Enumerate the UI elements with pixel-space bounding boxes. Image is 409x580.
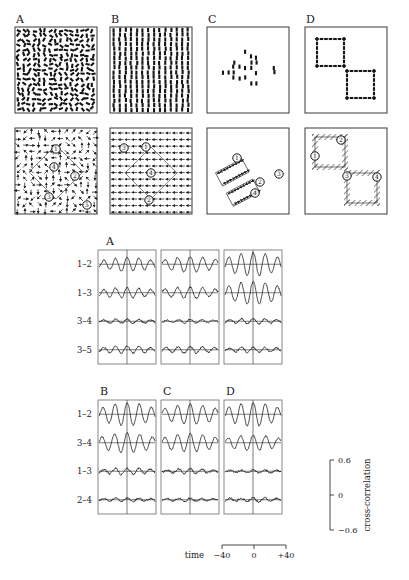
- recording-site-number: 4: [253, 189, 257, 196]
- stimulus-panel-letter: A: [15, 13, 25, 26]
- correlogram-column: [98, 250, 156, 364]
- recording-site-number: 2: [258, 178, 262, 185]
- stimulus-panel-d: D: [305, 13, 387, 113]
- stimulus-panels-group: ABCD: [15, 13, 387, 113]
- recording-site-number: 3: [122, 144, 126, 151]
- recording-site-marker: 3: [120, 144, 128, 152]
- receptive-field-panel-c: 1234: [207, 128, 289, 214]
- recording-site-number: 3: [277, 170, 281, 177]
- recording-site-marker: 1: [52, 145, 60, 153]
- receptive-field-panel-b: 3142: [110, 128, 192, 214]
- correlogram-row-label: 3–4: [77, 438, 92, 448]
- recording-site-marker: 1: [142, 143, 150, 151]
- receptive-field-panels-group: 14235314212342134: [14, 128, 387, 215]
- y-tick-label: 0: [338, 491, 343, 500]
- recording-site-marker: 2: [145, 196, 153, 204]
- correlogram-row-label: 3–5: [77, 345, 92, 355]
- y-tick-label: −0.6: [338, 526, 357, 535]
- x-tick-label: 0: [251, 551, 256, 560]
- recording-site-marker: 4: [147, 169, 155, 177]
- receptive-field-panel-d: 2134: [305, 128, 387, 214]
- recording-site-marker: 3: [275, 170, 283, 178]
- x-tick-label: +40: [278, 551, 295, 560]
- correlogram-block-letter: D: [226, 385, 235, 398]
- recording-site-marker: 1: [311, 152, 319, 160]
- correlogram-block-c: C: [161, 385, 219, 514]
- recording-site-marker: 5: [83, 201, 91, 209]
- recording-site-marker: 4: [373, 173, 381, 181]
- correlogram-row-label: 3–4: [77, 316, 92, 326]
- recording-site-marker: 3: [343, 172, 351, 180]
- recording-site-marker: 2: [337, 136, 345, 144]
- recording-site-number: 4: [375, 173, 379, 180]
- stimulus-frame: [110, 27, 192, 113]
- recording-site-number: 2: [339, 136, 343, 143]
- recording-site-marker: 2: [71, 172, 79, 180]
- correlogram-block-d: D: [224, 385, 282, 514]
- recording-site-number: 3: [47, 193, 51, 200]
- stimulus-panel-b: B: [110, 13, 192, 113]
- recording-site-marker: 1: [233, 154, 241, 162]
- recording-site-marker: 4: [251, 189, 259, 197]
- correlogram-group: A1–21–33–43–5B1–23–41–32–4CD: [77, 235, 282, 514]
- recording-site-number: 1: [313, 152, 317, 159]
- x-tick-label: −40: [214, 551, 231, 560]
- x-axis-title: time: [185, 550, 204, 560]
- recording-site-number: 5: [85, 201, 89, 208]
- recording-site-number: 2: [73, 172, 77, 179]
- recording-site-number: 4: [52, 163, 56, 170]
- y-axis-title: cross-correlation: [362, 458, 372, 532]
- stimulus-panel-a: A: [15, 13, 97, 113]
- recording-site-number: 2: [147, 196, 151, 203]
- stimulus-panel-letter: D: [306, 13, 315, 26]
- correlogram-row-label: 1–2: [77, 409, 92, 419]
- correlogram-block-letter: A: [105, 235, 115, 248]
- correlogram-block-letter: B: [100, 385, 108, 398]
- recording-site-number: 3: [345, 172, 349, 179]
- receptive-field-panel-a: 14235: [14, 128, 98, 215]
- recording-site-number: 4: [149, 169, 153, 176]
- correlogram-column: [224, 250, 282, 364]
- stimulus-panel-c: C: [207, 13, 289, 113]
- recording-site-number: 1: [144, 143, 148, 150]
- figure-root: ABCD 14235314212342134 A1–21–33–43–5B1–2…: [0, 0, 409, 580]
- figure-canvas: ABCD 14235314212342134 A1–21–33–43–5B1–2…: [0, 0, 409, 580]
- correlogram-row-label: 1–2: [77, 259, 92, 269]
- stimulus-panel-letter: B: [111, 13, 119, 26]
- correlogram-block-a: A1–21–33–43–5: [77, 235, 282, 364]
- recording-site-marker: 4: [50, 163, 58, 171]
- stimulus-panel-letter: C: [208, 13, 216, 26]
- correlogram-row-label: 1–3: [77, 288, 92, 298]
- y-tick-label: 0.6: [338, 456, 351, 465]
- recording-site-number: 1: [54, 145, 58, 152]
- correlogram-block-b: B1–23–41–32–4: [77, 385, 156, 514]
- recording-site-marker: 3: [45, 193, 53, 201]
- recording-site-number: 1: [235, 154, 239, 161]
- correlogram-block-letter: C: [163, 385, 171, 398]
- stimulus-frame: [207, 27, 289, 113]
- correlogram-row-label: 1–3: [77, 466, 92, 476]
- correlogram-column: [161, 250, 219, 364]
- correlogram-row-label: 2–4: [77, 495, 92, 505]
- recording-site-marker: 2: [256, 178, 264, 186]
